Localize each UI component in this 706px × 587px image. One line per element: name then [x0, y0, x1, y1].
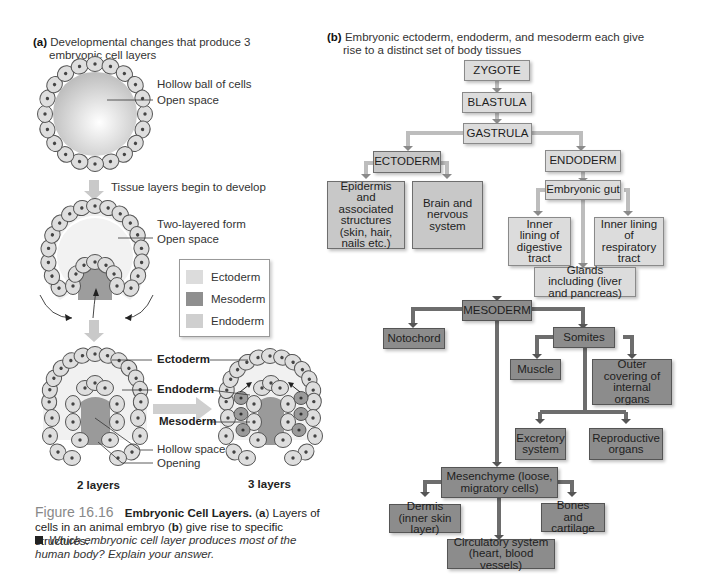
- node-respiratory-lining: Inner lining of respiratory tract: [594, 217, 664, 266]
- node-muscle: Muscle: [510, 359, 561, 380]
- node-excretory: Excretory system: [515, 428, 566, 460]
- question-text: Which embryonic cell layer produces most…: [35, 534, 296, 560]
- node-notochord: Notochord: [383, 328, 445, 349]
- node-reproductive: Reproductive organs: [589, 428, 663, 460]
- node-endoderm: ENDODERM: [545, 150, 621, 172]
- node-mesenchyme: Mesenchyme (loose, migratory cells): [441, 467, 558, 498]
- caption-ref-b: b: [172, 521, 179, 533]
- node-outer-covering: Outer covering of internal organs: [592, 359, 672, 405]
- node-digestive-lining: Inner lining of digestive tract: [508, 217, 571, 266]
- node-bones: Bones and cartilage: [541, 503, 605, 532]
- node-brain: Brain and nervous system: [412, 181, 483, 249]
- node-somites: Somites: [553, 327, 615, 348]
- figure-title: Embryonic Cell Layers.: [125, 507, 252, 519]
- node-blastula: BLASTULA: [462, 92, 532, 113]
- node-glands: Glands including (liver and pancreas): [534, 267, 636, 297]
- node-gastrula: GASTRULA: [463, 123, 532, 144]
- node-circulatory: Circulatory system (heart, blood vessels…: [447, 539, 555, 569]
- node-epidermis: Epidermis and associated structures (ski…: [327, 181, 405, 249]
- node-embryonic-gut: Embryonic gut: [545, 180, 621, 200]
- node-zygote: ZYGOTE: [464, 60, 530, 81]
- square-bullet-icon: [35, 536, 43, 544]
- node-mesoderm: MESODERM: [462, 300, 532, 321]
- figure-number: Figure 16.16: [35, 504, 114, 520]
- review-question: Which embryonic cell layer produces most…: [35, 533, 325, 561]
- node-ectoderm: ECTODERM: [373, 151, 441, 173]
- node-dermis: Dermis (inner skin layer): [389, 504, 461, 533]
